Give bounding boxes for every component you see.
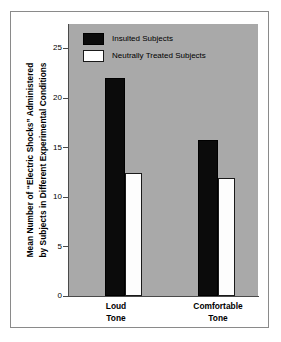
legend-label-insulted-subjects: Insulted Subjects — [112, 34, 173, 43]
y-tick-label-10: 10 — [42, 192, 62, 201]
y-tick-label-15: 15 — [42, 143, 62, 152]
legend-swatch-black-icon — [83, 33, 104, 45]
bar-neutral-comfortable-tone — [218, 178, 235, 296]
y-axis-tick-labels: 0 5 10 15 20 25 — [38, 0, 62, 342]
y-tick-label-0: 0 — [42, 291, 62, 300]
y-tick-mark-5 — [63, 246, 69, 247]
legend-item-insulted-subjects: Insulted Subjects — [83, 30, 233, 47]
x-category-loud-tone-line-2: Tone — [80, 313, 152, 325]
y-tick-label-5: 5 — [42, 242, 62, 251]
y-tick-mark-0 — [63, 296, 69, 297]
x-category-loud-tone-line-1: Loud — [80, 301, 152, 313]
y-tick-mark-20 — [63, 98, 69, 99]
chart-legend: Insulted Subjects Neutrally Treated Subj… — [83, 30, 233, 64]
y-tick-mark-25 — [63, 48, 69, 49]
legend-swatch-white-icon — [83, 50, 104, 62]
y-tick-label-20: 20 — [42, 93, 62, 102]
legend-label-neutrally-treated-subjects: Neutrally Treated Subjects — [112, 51, 206, 60]
y-tick-label-25: 25 — [42, 43, 62, 52]
x-category-comfortable-tone-line-1: Comfortable — [172, 301, 264, 313]
bar-insulted-loud-tone — [105, 78, 125, 296]
y-axis-line — [68, 24, 69, 297]
x-category-label-comfortable-tone: Comfortable Tone — [172, 301, 264, 324]
legend-item-neutrally-treated-subjects: Neutrally Treated Subjects — [83, 47, 233, 64]
x-category-label-loud-tone: Loud Tone — [80, 301, 152, 324]
plot-area — [68, 24, 258, 296]
bar-neutral-loud-tone — [125, 173, 142, 296]
y-tick-mark-10 — [63, 197, 69, 198]
x-axis-line — [68, 296, 259, 297]
x-category-comfortable-tone-line-2: Tone — [172, 313, 264, 325]
chart-figure: Mean Number of “Electric Shocks” Adminis… — [0, 0, 281, 342]
y-tick-mark-15 — [63, 147, 69, 148]
bar-insulted-comfortable-tone — [198, 140, 218, 296]
y-axis-title-line-1: Mean Number of “Electric Shocks” Adminis… — [25, 63, 35, 258]
